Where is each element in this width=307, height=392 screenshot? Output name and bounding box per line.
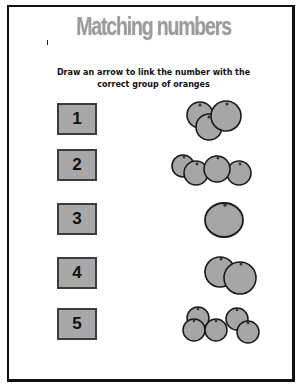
number-box-4[interactable]: 4 — [57, 257, 97, 289]
number-box-5[interactable]: 5 — [57, 308, 97, 340]
orange-icon — [224, 262, 256, 294]
orange-icon — [205, 203, 243, 237]
worksheet-title: Matching numbers — [34, 12, 273, 41]
orange-group-4[interactable] — [170, 153, 256, 189]
instruction-line-2: correct group of oranges — [0, 80, 307, 89]
number-box-2[interactable]: 2 — [57, 149, 97, 181]
orange-group-3[interactable] — [183, 98, 253, 144]
instruction-line-1: Draw an arrow to link the number with th… — [0, 68, 307, 77]
number-box-1[interactable]: 1 — [57, 103, 97, 135]
text-cursor-mark — [47, 40, 48, 45]
orange-group-1[interactable] — [203, 200, 245, 240]
orange-icon — [204, 156, 230, 182]
orange-group-5[interactable] — [181, 306, 265, 346]
orange-icon — [211, 101, 241, 131]
number-box-3[interactable]: 3 — [57, 203, 97, 235]
orange-group-2[interactable] — [202, 254, 262, 296]
